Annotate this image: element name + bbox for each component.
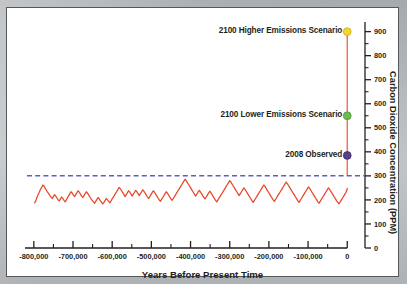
y-tick-label-300: 300 — [374, 171, 398, 180]
y-tick-label-600: 600 — [374, 99, 398, 108]
y-axis — [365, 22, 371, 248]
y-tick-label-800: 800 — [374, 51, 398, 60]
annotation-dot-0[interactable] — [343, 28, 351, 36]
x-axis — [25, 241, 347, 248]
y-tick-label-900: 900 — [374, 27, 398, 36]
annotation-dot-1[interactable] — [343, 112, 351, 120]
y-tick-label-400: 400 — [374, 147, 398, 156]
annotation-dot-2[interactable] — [343, 152, 351, 160]
chart-plot-area — [7, 8, 397, 275]
x-tick-label-0: 0 — [321, 252, 373, 261]
y-tick-label-200: 200 — [374, 196, 398, 205]
chart-panel: 2100 Higher Emissions Scenario 2100 Lowe… — [6, 7, 399, 277]
x-axis-title: Years Before Present Time — [7, 269, 398, 280]
y-tick-label-100: 100 — [374, 220, 398, 229]
co2-record-line — [35, 179, 348, 204]
y-tick-label-0: 0 — [374, 244, 398, 253]
y-tick-label-700: 700 — [374, 75, 398, 84]
annotation-label-2008-observed: 2008 Observed — [7, 150, 342, 159]
annotation-label-lower-emissions: 2100 Lower Emissions Scenario — [7, 110, 342, 119]
co2-data-path — [35, 179, 348, 204]
annotation-label-higher-emissions: 2100 Higher Emissions Scenario — [7, 26, 342, 35]
y-tick-label-500: 500 — [374, 123, 398, 132]
